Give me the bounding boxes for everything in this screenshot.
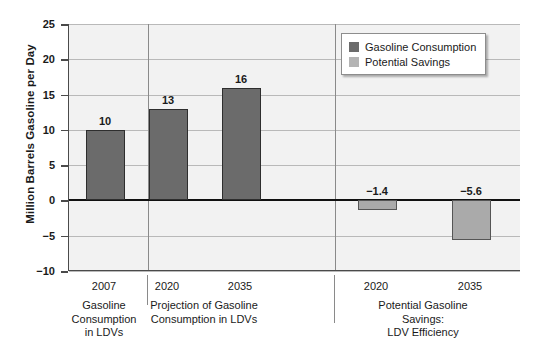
bar-value-label: −1.4 [347, 185, 407, 197]
x-category-label: 2020 [364, 280, 388, 292]
gridline [69, 165, 520, 166]
y-tick-mark [61, 271, 68, 273]
legend-swatch-icon-consumption [349, 42, 359, 52]
gridline [69, 130, 520, 131]
bar-2007-consumption [86, 130, 125, 201]
y-tick-mark [61, 236, 68, 238]
y-tick-label: 5 [15, 159, 55, 171]
bar-value-label: −5.6 [441, 185, 501, 197]
x-category-label: 2020 [155, 280, 179, 292]
bar-chart: Million Barrels Gasoline per Day 2520151… [0, 0, 537, 348]
y-tick-label: −5 [15, 230, 55, 242]
y-tick-mark [61, 59, 68, 61]
y-tick-mark [61, 200, 68, 202]
axis-group-separator-2 [334, 275, 335, 323]
y-tick-label: 15 [15, 89, 55, 101]
legend-item-potential-savings: Potential Savings [349, 54, 476, 69]
y-tick-label: 20 [15, 53, 55, 65]
bar-2020-savings [358, 200, 397, 210]
bar-2035-savings [452, 200, 491, 240]
y-tick-label: −10 [15, 265, 55, 277]
bar-value-label: 13 [138, 94, 198, 106]
bar-2035-consumption [222, 88, 261, 201]
axis-group-separator-1 [147, 275, 148, 305]
y-tick-mark [61, 165, 68, 167]
gridline [69, 271, 520, 272]
y-tick-label: 10 [15, 124, 55, 136]
x-category-label: 2035 [458, 280, 482, 292]
x-category-label: 2007 [92, 280, 116, 292]
x-group-label: Potential Gasoline Savings: LDV Efficien… [366, 299, 480, 340]
y-tick-label: 25 [15, 18, 55, 30]
legend: Gasoline Consumption Potential Savings [341, 33, 486, 75]
bar-value-label: 10 [75, 115, 135, 127]
bar-value-label: 16 [211, 73, 271, 85]
legend-label-consumption: Gasoline Consumption [365, 41, 476, 53]
legend-label-savings: Potential Savings [365, 56, 450, 68]
x-group-label: Gasoline Consumption in LDVs [72, 299, 137, 340]
legend-item-gasoline-consumption: Gasoline Consumption [349, 39, 476, 54]
panel-divider-2 [335, 24, 336, 270]
x-category-label: 2035 [228, 280, 252, 292]
y-tick-mark [61, 24, 68, 26]
gridline [69, 24, 520, 25]
bar-2020-consumption [149, 109, 188, 201]
legend-swatch-icon-savings [349, 57, 359, 67]
y-tick-mark [61, 95, 68, 97]
x-group-label: Projection of Gasoline Consumption in LD… [150, 299, 258, 326]
gridline [69, 95, 520, 96]
y-tick-label: 0 [15, 194, 55, 206]
y-tick-mark [61, 130, 68, 132]
